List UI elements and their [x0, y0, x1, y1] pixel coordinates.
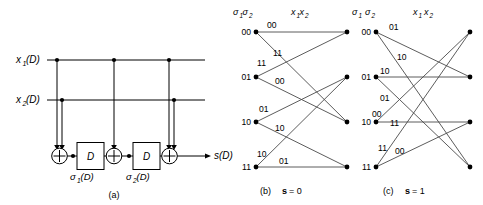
svg-text:= 1: = 1 — [412, 186, 425, 196]
svg-text:σ: σ — [365, 7, 371, 17]
node-right-01 — [468, 75, 473, 80]
branch-label-10-11: 10 — [275, 123, 285, 133]
figure-root: D D x 1 (D) x 2 (D) s (D) σ 1 (D) σ — [0, 0, 483, 205]
node-left-11 — [254, 165, 259, 170]
junction-dot-x2-b — [172, 98, 176, 102]
junction-dot-sigma1 — [71, 154, 75, 158]
junction-dot-x2-a — [60, 98, 64, 102]
svg-text:s: s — [282, 186, 287, 196]
svg-text:x: x — [15, 54, 22, 65]
svg-text:2: 2 — [304, 12, 309, 19]
branch-label-10-10: 11 — [390, 118, 399, 128]
svg-text:= 0: = 0 — [289, 186, 302, 196]
junction-dot-sigma2 — [127, 154, 131, 158]
svg-text:2: 2 — [371, 12, 376, 19]
state-label-11: 11 — [362, 162, 371, 172]
branch-label-01-10: 00 — [275, 76, 285, 86]
svg-text:1: 1 — [419, 12, 423, 19]
node-right-10 — [468, 120, 473, 125]
panel-c-header-state: σ 1 σ 2 — [352, 7, 376, 19]
panel-c-header-input: x 1 x 2 — [412, 7, 434, 19]
delay-box-1-label: D — [87, 151, 94, 162]
branch-11-to-01 — [256, 77, 347, 167]
branch-label-00-00: 00 — [267, 20, 277, 30]
state-label-01: 01 — [361, 72, 371, 82]
svg-text:x: x — [299, 7, 305, 17]
svg-text:(c): (c) — [383, 186, 394, 196]
node-left-10 — [254, 120, 259, 125]
branch-11-to-10 — [376, 122, 470, 167]
state-label-10: 10 — [241, 117, 251, 127]
node-left-10 — [374, 120, 379, 125]
panel-c-caption: (c) s = 1 — [383, 186, 425, 196]
svg-text:(D): (D) — [137, 171, 150, 182]
panel-b-header-input: x 1 x 2 — [290, 7, 309, 19]
state-label-11: 11 — [242, 162, 251, 172]
branch-label-11-00: 11 — [378, 143, 387, 153]
panel-b-header-state: σ 1 σ 2 — [233, 7, 253, 19]
node-left-11 — [374, 165, 379, 170]
input-label-x1: x 1 (D) — [15, 54, 40, 67]
svg-text:(D): (D) — [81, 171, 94, 182]
svg-text:σ: σ — [352, 7, 358, 17]
svg-text:2: 2 — [429, 12, 434, 19]
branch-label-11-01: 10 — [257, 149, 267, 159]
svg-text:σ: σ — [243, 7, 249, 17]
branch-01-to-00 — [256, 32, 347, 77]
state-label-10: 10 — [361, 117, 371, 127]
panel-a-caption: (a) — [109, 190, 120, 200]
svg-text:x: x — [290, 7, 296, 17]
branch-00-to-01 — [376, 32, 470, 77]
svg-text:x: x — [423, 7, 429, 17]
branch-label-10-00: 00 — [372, 109, 382, 119]
xor-adder-2 — [106, 148, 122, 164]
state-label-sigma2: σ 2 (D) — [126, 171, 150, 184]
svg-text:1: 1 — [359, 12, 363, 19]
branch-label-11-10: 00 — [395, 146, 405, 156]
junction-dot-x1-c — [167, 58, 171, 62]
branch-label-00-01: 01 — [389, 22, 399, 32]
node-right-11 — [468, 165, 473, 170]
svg-text:σ: σ — [70, 171, 77, 182]
svg-text:σ: σ — [126, 171, 133, 182]
panel-c-trellis: σ 1 σ 2 x 1 x 2 00 01 1 — [345, 0, 483, 205]
branch-label-00-11: 10 — [397, 52, 407, 62]
svg-text:(D): (D) — [26, 94, 40, 105]
state-label-sigma1: σ 1 (D) — [70, 171, 94, 184]
svg-text:(D): (D) — [26, 54, 40, 65]
branch-label-11-11: 01 — [279, 156, 289, 166]
svg-text:s: s — [405, 186, 410, 196]
state-label-00: 00 — [361, 27, 371, 37]
svg-text:x: x — [15, 94, 22, 105]
node-left-01 — [254, 75, 259, 80]
svg-text:(b): (b) — [260, 186, 271, 196]
panel-a-encoder-circuit: D D x 1 (D) x 2 (D) s (D) σ 1 (D) σ — [0, 0, 240, 205]
junction-dot-x1-b — [112, 58, 116, 62]
svg-text:2: 2 — [248, 12, 253, 19]
node-left-00 — [374, 30, 379, 35]
state-label-00: 00 — [241, 27, 251, 37]
state-label-01: 01 — [241, 72, 251, 82]
svg-text:x: x — [412, 7, 418, 17]
delay-box-2-label: D — [143, 151, 150, 162]
branch-label-01-11: 01 — [380, 93, 390, 103]
svg-text:σ: σ — [233, 7, 239, 17]
panel-b-caption: (b) s = 0 — [260, 186, 302, 196]
branch-label-00-10: 11 — [273, 48, 282, 58]
panel-b-trellis: σ 1 σ 2 x 1 x 2 00 01 1 — [225, 0, 355, 205]
input-label-x2: x 2 (D) — [15, 94, 40, 107]
branch-00-to-10 — [256, 32, 347, 122]
xor-adder-1 — [52, 148, 68, 164]
branch-label-10-01: 01 — [259, 104, 269, 114]
branch-10-to-11 — [256, 122, 347, 167]
junction-dot-x1-a — [55, 58, 59, 62]
branch-label-01-00: 11 — [257, 58, 266, 68]
branch-label-01-01: 10 — [380, 66, 390, 76]
node-right-00 — [468, 30, 473, 35]
node-left-00 — [254, 30, 259, 35]
arrowhead-output — [205, 153, 211, 158]
xor-adder-3 — [162, 148, 178, 164]
node-left-01 — [374, 75, 379, 80]
